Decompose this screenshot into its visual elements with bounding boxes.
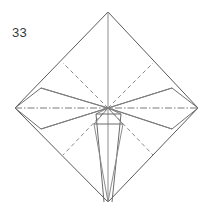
spike-inner-right-crease bbox=[108, 124, 123, 202]
right-upper-wing-edge bbox=[172, 88, 198, 108]
radial-crease-to-right-wing-upper bbox=[108, 88, 172, 108]
left-lower-wing-edge bbox=[15, 108, 41, 129]
upper-radial-creases-group bbox=[41, 88, 172, 108]
left-upper-wing-edge bbox=[15, 88, 41, 108]
crease-pattern-svg bbox=[0, 0, 215, 216]
lower-radial-creases-group bbox=[41, 108, 172, 129]
right-lower-wing-edge bbox=[172, 108, 198, 129]
origami-diagram-figure: 33 bbox=[0, 0, 215, 216]
